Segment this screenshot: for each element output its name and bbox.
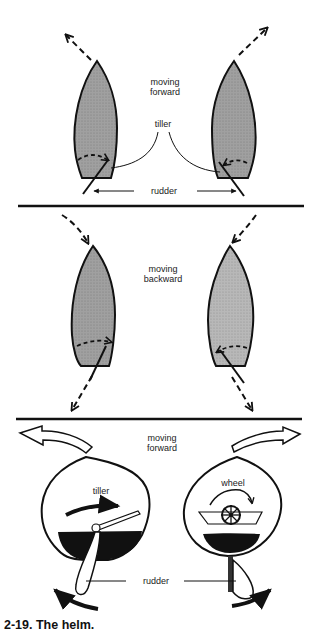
panel-forward-top <box>66 28 267 196</box>
direction-label: moving backward <box>139 264 187 284</box>
direction-label: moving forward <box>142 433 182 453</box>
tiller-leader-left <box>111 132 158 168</box>
direction-line2: forward <box>145 87 185 97</box>
hull-left <box>72 246 115 366</box>
figure-caption: 2-19. The helm. <box>4 618 94 632</box>
hull-right <box>212 61 256 178</box>
wheel-icon <box>221 505 241 525</box>
direction-line2: forward <box>142 443 182 453</box>
direction-line2: backward <box>139 274 187 284</box>
rudder-blade-wheel <box>233 560 253 599</box>
direction-label: moving forward <box>145 77 185 97</box>
turn-arrow-left <box>20 426 92 453</box>
turn-arrow-right <box>232 427 300 452</box>
tiller-label: tiller <box>148 119 178 129</box>
rudder-label: rudder <box>136 576 176 586</box>
wheel-label: wheel <box>218 478 248 488</box>
incoming-arrow-left <box>62 215 88 243</box>
direction-line1: moving <box>145 77 185 87</box>
direction-line1: moving <box>142 433 182 443</box>
direction-line1: moving <box>139 264 187 274</box>
stern-arrow-left <box>72 376 92 410</box>
tiller-pivot <box>92 524 100 532</box>
hull-left <box>74 61 117 178</box>
heading-arrow-left <box>66 35 91 60</box>
tiller-label: tiller <box>86 486 116 496</box>
heading-arrow-right <box>239 28 267 55</box>
incoming-arrow-right <box>233 215 256 242</box>
rudder-label: rudder <box>144 186 184 196</box>
panel-backward <box>62 215 256 410</box>
